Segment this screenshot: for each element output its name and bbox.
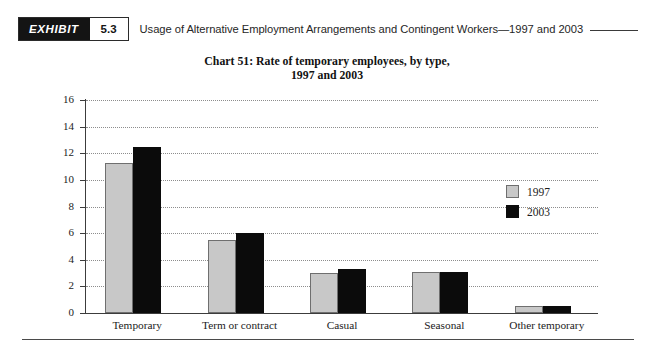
y-axis-tick (80, 286, 86, 287)
chart-plot: 0246810121416 TemporaryTerm or contractC… (0, 0, 654, 356)
bar-seasonal-1997 (412, 272, 440, 313)
bar-other-temporary-1997 (515, 306, 543, 313)
legend-item-2003: 2003 (506, 205, 550, 218)
y-axis-tick (80, 233, 86, 234)
legend-label-1997: 1997 (527, 186, 550, 198)
y-axis-tick-label: 10 (48, 173, 74, 185)
bar-temporary-1997 (105, 163, 133, 313)
chart-legend: 19972003 (506, 185, 550, 218)
bar-other-temporary-2003 (543, 306, 571, 313)
gridline (86, 127, 598, 128)
y-axis-tick-label: 6 (48, 226, 74, 238)
y-axis-tick-label: 4 (48, 253, 74, 265)
gridline (86, 153, 598, 154)
y-axis-tick (80, 153, 86, 154)
y-axis-tick (80, 207, 86, 208)
bar-term-or-contract-2003 (236, 233, 264, 313)
y-axis-tick-label: 12 (48, 146, 74, 158)
y-axis-tick (80, 260, 86, 261)
legend-swatch-2003 (506, 205, 519, 218)
y-axis-tick (80, 180, 86, 181)
footer-rule (22, 339, 634, 340)
bar-seasonal-2003 (440, 272, 468, 313)
gridline (86, 180, 598, 181)
bar-casual-2003 (338, 269, 366, 313)
bar-casual-1997 (310, 273, 338, 313)
y-axis-tick (80, 127, 86, 128)
y-axis-tick-label: 8 (48, 200, 74, 212)
y-axis-tick-label: 16 (48, 93, 74, 105)
gridline (86, 100, 598, 101)
y-axis-tick (80, 100, 86, 101)
x-axis-line (85, 313, 598, 314)
y-axis-tick-label: 2 (48, 279, 74, 291)
bar-term-or-contract-1997 (208, 240, 236, 313)
legend-swatch-1997 (506, 185, 519, 198)
x-axis-label-other-temporary: Other temporary (467, 319, 627, 331)
bar-temporary-2003 (133, 147, 161, 313)
y-axis-tick (80, 313, 86, 314)
y-axis-tick-label: 0 (48, 306, 74, 318)
legend-label-2003: 2003 (527, 206, 550, 218)
legend-item-1997: 1997 (506, 185, 550, 198)
gridline (86, 260, 598, 261)
y-axis-tick-label: 14 (48, 120, 74, 132)
gridline (86, 233, 598, 234)
